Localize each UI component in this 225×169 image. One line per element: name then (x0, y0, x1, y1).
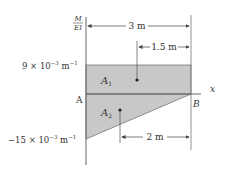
point-b-label: B (192, 99, 200, 109)
dimension-1-5m-label: 1.5 m (151, 42, 177, 52)
top-value-label: 9 × 10−3 m−1 (22, 60, 78, 71)
y-axis-label-numerator: M (73, 15, 82, 23)
dimension-3m-label: 3 m (128, 21, 146, 31)
a2-centroid-dot (118, 108, 121, 111)
dimension-2m-label: 2 m (146, 132, 164, 142)
point-a-label: A (75, 95, 83, 105)
bottom-value-label: −15 × 10−3 m−1 (8, 134, 76, 145)
y-axis-label-denominator: EI (73, 24, 82, 32)
mei-diagram: 3 m 1.5 m 2 m A1 A2 M EI 9 × 10−3 m−1 −1… (0, 0, 225, 169)
x-axis-label: x (210, 84, 215, 94)
a1-centroid-dot (135, 78, 138, 81)
